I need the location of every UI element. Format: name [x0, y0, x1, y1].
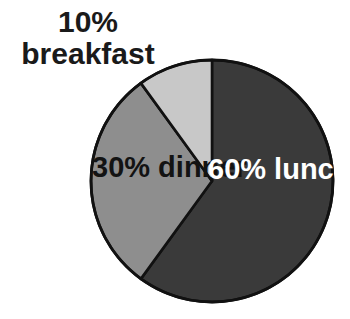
lunch-name: lunch — [274, 153, 350, 185]
pie-label-dinner: 30% dinner — [92, 152, 210, 183]
pie-label-lunch: 60% lunch — [208, 154, 320, 185]
pie-chart-figure: 10% breakfast 30% dinner 60% lunch — [0, 0, 350, 319]
lunch-percent: 60% — [208, 153, 266, 185]
breakfast-name: breakfast — [8, 38, 168, 70]
dinner-percent: 30% — [92, 151, 150, 183]
breakfast-percent: 10% — [8, 6, 168, 38]
pie-label-breakfast: 10% breakfast — [8, 6, 168, 70]
